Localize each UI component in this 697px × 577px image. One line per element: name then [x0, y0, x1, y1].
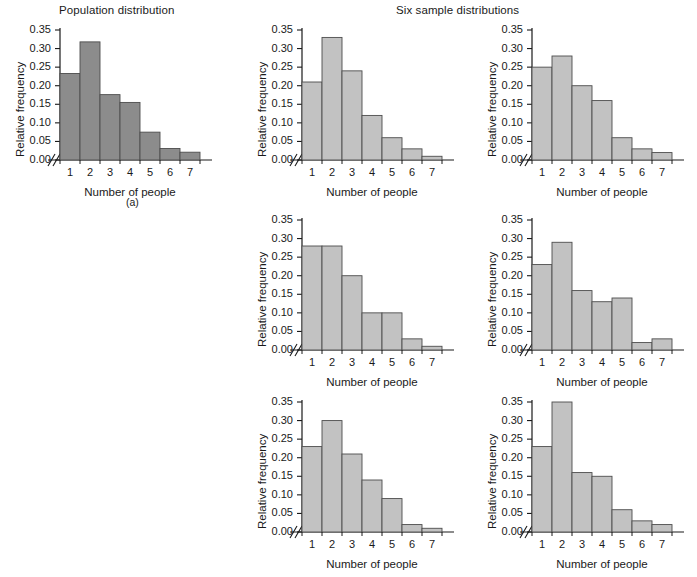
histogram-bar [60, 73, 80, 160]
y-tick-label: 0.30 [472, 232, 523, 244]
histogram-bar [532, 67, 552, 160]
y-tick-label: 0.30 [472, 414, 523, 426]
y-tick-label: 0.30 [242, 42, 293, 54]
chart-sample-1: 0.000.050.100.150.200.250.300.351234567N… [242, 18, 460, 208]
histogram-bar [322, 421, 342, 532]
histogram-bar [302, 246, 322, 350]
x-axis-title: Number of people [286, 186, 458, 198]
x-axis-title: Number of people [286, 558, 458, 570]
y-tick-label: 0.30 [472, 42, 523, 54]
x-tick-label: 3 [572, 538, 592, 550]
y-axis-title: Relative frequency [256, 252, 268, 347]
histogram-bar [382, 138, 402, 160]
histogram-bar [652, 525, 672, 532]
x-tick-label: 6 [160, 166, 180, 178]
histogram-bar [402, 339, 422, 350]
chart-population: 0.000.050.100.150.200.250.300.351234567N… [0, 18, 218, 208]
histogram-bar [572, 86, 592, 160]
x-tick-label: 7 [652, 356, 672, 368]
y-axis-title: Relative frequency [256, 434, 268, 529]
x-tick-label: 4 [592, 356, 612, 368]
histogram-bar [422, 346, 442, 350]
histogram-bar [362, 115, 382, 160]
x-tick-label: 3 [572, 166, 592, 178]
y-axis-title: Relative frequency [14, 62, 26, 157]
plot-area-sample-6: 0.000.050.100.150.200.250.300.351234567N… [472, 390, 690, 577]
y-axis-title: Relative frequency [486, 62, 498, 157]
x-tick-label: 5 [382, 356, 402, 368]
x-tick-label: 7 [652, 538, 672, 550]
chart-sample-4: 0.000.050.100.150.200.250.300.351234567N… [472, 208, 690, 398]
x-tick-label: 6 [402, 356, 422, 368]
x-tick-label: 3 [342, 166, 362, 178]
x-tick-label: 4 [362, 538, 382, 550]
x-tick-label: 2 [552, 166, 572, 178]
histogram-bar [652, 339, 672, 350]
plot-area-sample-4: 0.000.050.100.150.200.250.300.351234567N… [472, 208, 690, 398]
x-tick-label: 2 [552, 538, 572, 550]
x-tick-label: 1 [532, 356, 552, 368]
histogram-bar [100, 95, 120, 160]
x-tick-label: 1 [302, 538, 322, 550]
plot-area-sample-3: 0.000.050.100.150.200.250.300.351234567N… [242, 208, 460, 398]
histogram-bar [632, 521, 652, 532]
y-tick-label: 0.35 [472, 395, 523, 407]
x-tick-label: 3 [342, 538, 362, 550]
x-axis-title: Number of people [44, 186, 216, 198]
chart-sample-3: 0.000.050.100.150.200.250.300.351234567N… [242, 208, 460, 398]
x-tick-label: 2 [322, 166, 342, 178]
plot-area-sample-5: 0.000.050.100.150.200.250.300.351234567N… [242, 390, 460, 577]
x-tick-label: 5 [140, 166, 160, 178]
histogram-bar [180, 152, 200, 160]
x-tick-label: 7 [422, 538, 442, 550]
x-tick-label: 5 [382, 166, 402, 178]
y-tick-label: 0.30 [242, 414, 293, 426]
y-axis-title: Relative frequency [256, 62, 268, 157]
histogram-bar [160, 148, 180, 160]
x-axis-title: Number of people [516, 376, 688, 388]
x-tick-label: 2 [322, 356, 342, 368]
histogram-bar [552, 402, 572, 532]
x-tick-label: 6 [632, 356, 652, 368]
y-tick-label: 0.35 [472, 23, 523, 35]
x-tick-label: 5 [612, 356, 632, 368]
histogram-bar [402, 525, 422, 532]
x-tick-label: 4 [362, 356, 382, 368]
histogram-bar [632, 149, 652, 160]
y-tick-label: 0.35 [242, 213, 293, 225]
y-axis-title: Relative frequency [486, 434, 498, 529]
six-sample-distributions-title: Six sample distributions [396, 4, 519, 16]
y-tick-label: 0.35 [242, 395, 293, 407]
y-axis-title: Relative frequency [486, 252, 498, 347]
histogram-bar [302, 82, 322, 160]
x-tick-label: 2 [80, 166, 100, 178]
x-tick-label: 4 [592, 166, 612, 178]
x-tick-label: 6 [632, 166, 652, 178]
x-tick-label: 6 [402, 538, 422, 550]
x-axis-title: Number of people [516, 558, 688, 570]
y-tick-label: 0.30 [242, 232, 293, 244]
plot-area-sample-2: 0.000.050.100.150.200.250.300.351234567N… [472, 18, 690, 208]
histogram-bar [342, 454, 362, 532]
x-tick-label: 4 [120, 166, 140, 178]
histogram-bar [382, 313, 402, 350]
histogram-bar [120, 102, 140, 160]
histogram-bar [422, 156, 442, 160]
histogram-bar [322, 246, 342, 350]
x-tick-label: 7 [422, 356, 442, 368]
histogram-bar [322, 37, 342, 160]
histogram-bar [402, 149, 422, 160]
figure-root: Population distribution Six sample distr… [0, 0, 697, 577]
histogram-bar [342, 71, 362, 160]
y-tick-label: 0.35 [242, 23, 293, 35]
histogram-bar [532, 265, 552, 350]
x-tick-label: 4 [362, 166, 382, 178]
x-axis-title: Number of people [516, 186, 688, 198]
histogram-bar [532, 447, 552, 532]
x-tick-label: 1 [302, 166, 322, 178]
x-tick-label: 5 [382, 538, 402, 550]
histogram-bar [592, 476, 612, 532]
histogram-bar [362, 313, 382, 350]
x-tick-label: 2 [322, 538, 342, 550]
histogram-bar [612, 510, 632, 532]
